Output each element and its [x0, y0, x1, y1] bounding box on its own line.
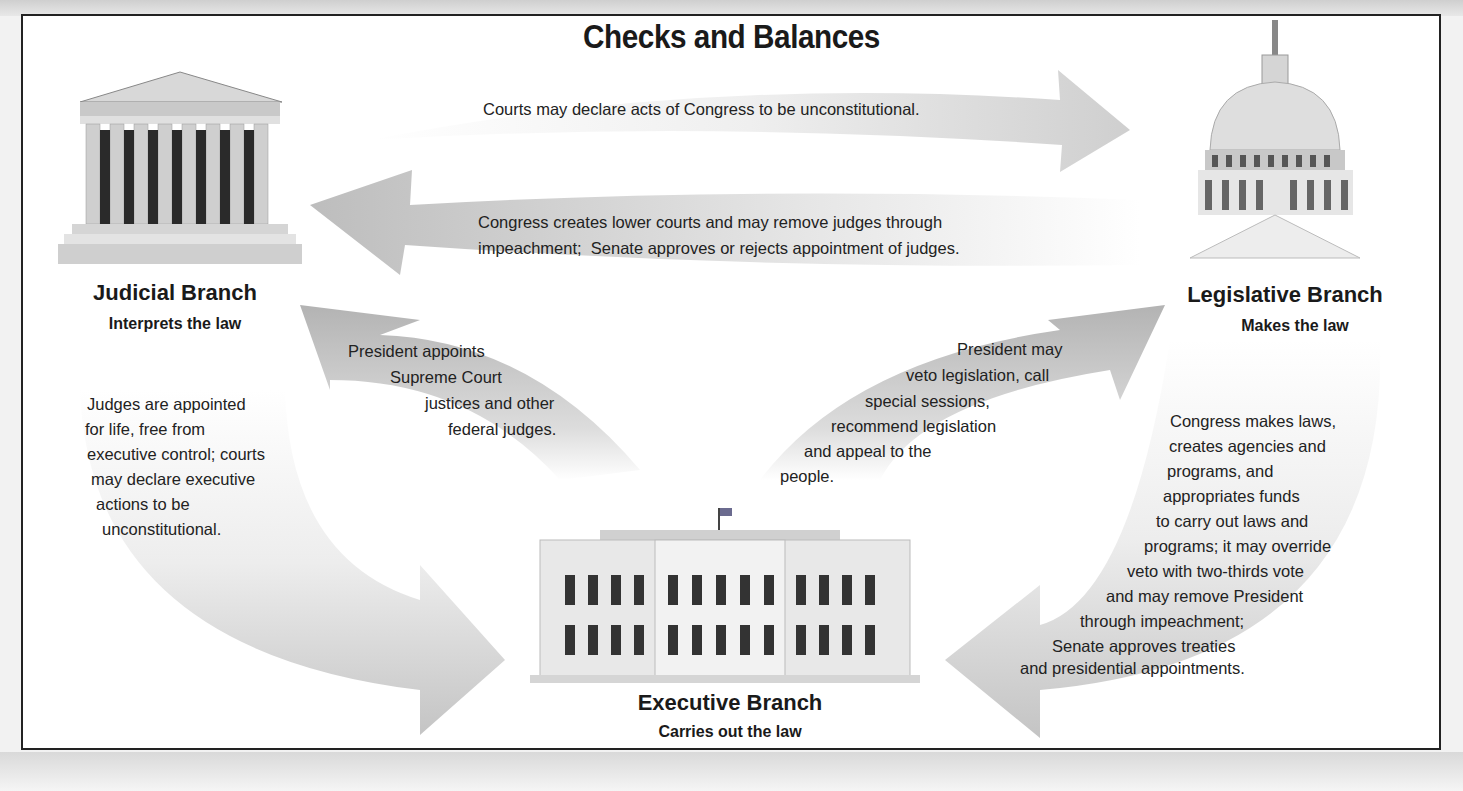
check-legislative-to-executive-line-8: and may remove President [1106, 585, 1303, 608]
arrow-judicial-to-executive [80, 390, 505, 735]
check-legislative-to-judicial-line-1: Congress creates lower courts and may re… [478, 211, 942, 234]
check-executive-to-legislative-line-6: people. [780, 465, 834, 488]
check-legislative-to-executive-line-7: veto with two-thirds vote [1127, 560, 1304, 583]
check-executive-to-legislative-line-1: President may [957, 338, 1062, 361]
check-legislative-to-executive-line-3: programs, and [1167, 460, 1273, 483]
arrow-judicial-to-legislative [370, 70, 1130, 172]
check-judicial-to-legislative: Courts may declare acts of Congress to b… [483, 98, 920, 121]
check-judicial-to-executive-line-5: actions to be [96, 493, 190, 516]
check-executive-to-legislative-line-4: recommend legislation [831, 415, 996, 438]
legislative-branch-role: Makes the law [1170, 317, 1420, 335]
check-executive-to-legislative-line-5: and appeal to the [804, 440, 932, 463]
check-judicial-to-executive-line-1: Judges are appointed [87, 393, 246, 416]
check-legislative-to-executive-line-5: to carry out laws and [1156, 510, 1308, 533]
check-executive-to-judicial-line-4: federal judges. [448, 418, 556, 441]
executive-branch-role: Carries out the law [600, 723, 860, 741]
check-judicial-to-executive-line-6: unconstitutional. [102, 518, 221, 541]
check-judicial-to-executive-line-3: executive control; courts [87, 443, 265, 466]
check-legislative-to-executive-line-11: and presidential appointments. [1020, 657, 1245, 680]
check-legislative-to-executive-line-6: programs; it may override [1144, 535, 1331, 558]
supreme-court-icon [58, 72, 302, 264]
check-judicial-to-executive-line-2: for life, free from [85, 418, 205, 441]
check-executive-to-judicial-line-1: President appoints [348, 340, 485, 363]
check-legislative-to-executive-line-1: Congress makes laws, [1170, 410, 1336, 433]
check-executive-to-legislative-line-3: special sessions, [865, 390, 990, 413]
executive-branch-name: Executive Branch [600, 690, 860, 716]
check-executive-to-judicial-line-2: Supreme Court [390, 366, 502, 389]
check-judicial-to-executive-line-4: may declare executive [91, 468, 255, 491]
diagram-title: Checks and Balances [73, 18, 1390, 56]
check-executive-to-judicial-line-3: justices and other [425, 392, 554, 415]
check-legislative-to-executive-line-2: creates agencies and [1169, 435, 1326, 458]
check-executive-to-legislative-line-2: veto legislation, call [906, 364, 1049, 387]
judicial-branch-name: Judicial Branch [60, 280, 290, 306]
legislative-branch-name: Legislative Branch [1160, 282, 1410, 308]
check-legislative-to-executive-line-10: Senate approves treaties [1052, 635, 1235, 658]
check-legislative-to-judicial-line-2: impeachment; Senate approves or rejects … [478, 237, 960, 260]
check-legislative-to-executive-line-9: through impeachment; [1080, 610, 1244, 633]
white-house-icon [530, 508, 920, 683]
check-legislative-to-executive-line-4: appropriates funds [1163, 485, 1300, 508]
judicial-branch-role: Interprets the law [60, 315, 290, 333]
